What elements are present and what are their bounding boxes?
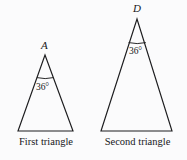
- first-triangle-caption: First triangle: [10, 136, 82, 148]
- second-triangle-angle-label: 36°: [129, 46, 142, 56]
- second-triangle-angle-arc: [129, 43, 146, 44]
- triangles-figure: A 36° First triangle D 36° Second triang…: [0, 0, 187, 160]
- first-triangle-angle-arc: [37, 78, 54, 79]
- second-triangle-outline: [101, 19, 172, 131]
- first-triangle-outline: [18, 55, 73, 131]
- second-triangle-caption: Second triangle: [95, 136, 180, 148]
- first-triangle-vertex-label: A: [41, 40, 48, 51]
- second-triangle-vertex-label: D: [133, 3, 141, 14]
- first-triangle-angle-label: 36°: [36, 82, 49, 92]
